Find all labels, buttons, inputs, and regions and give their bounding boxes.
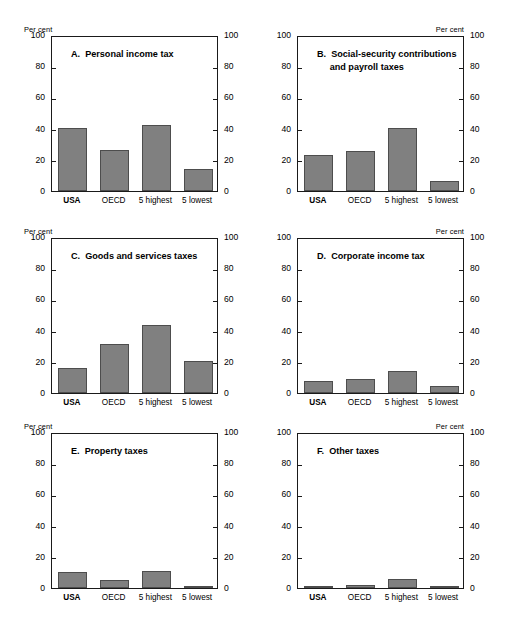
x-label-f-5-highest: 5 highest (381, 593, 423, 602)
bar-f-5-highest (388, 579, 417, 588)
y-tick-label-left-f-20: 20 (255, 553, 291, 562)
y-tick-label-right-f-20: 20 (470, 553, 506, 562)
y-tick-label-right-f-100: 100 (470, 428, 506, 437)
y-tick-label-right-f-80: 80 (470, 459, 506, 468)
y-tick-label-left-f-0: 0 (255, 584, 291, 593)
x-label-f-usa: USA (297, 593, 339, 602)
bar-f-oecd (346, 585, 375, 588)
percent-axis-caption-f: Per cent (436, 423, 464, 431)
y-tick-label-left-f-40: 40 (255, 522, 291, 531)
figure-panel-grid: Per cent002020404060608080100100USAOECD5… (0, 0, 508, 619)
bar-f-usa (304, 586, 333, 588)
y-tick-label-right-f-0: 0 (470, 584, 506, 593)
x-label-f-5-lowest: 5 lowest (422, 593, 464, 602)
chart-panel-f: Per cent002020404060608080100100USAOECD5… (0, 0, 508, 619)
y-tick-label-left-f-100: 100 (255, 428, 291, 437)
y-tick-label-left-f-80: 80 (255, 459, 291, 468)
y-tick-label-right-f-40: 40 (470, 522, 506, 531)
panel-title-f: F. Other taxes (317, 445, 379, 458)
y-tick-label-left-f-60: 60 (255, 490, 291, 499)
bar-f-5-lowest (430, 586, 459, 588)
x-label-f-oecd: OECD (339, 593, 381, 602)
y-tick-label-right-f-60: 60 (470, 490, 506, 499)
